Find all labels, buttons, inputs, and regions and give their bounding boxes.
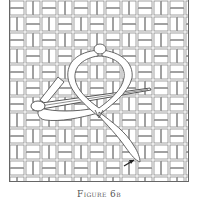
ribbon-knot-top [94, 44, 106, 54]
figure-caption: Figure 6b [0, 189, 198, 199]
canvas-weave-grid [9, 0, 189, 182]
needle-eye-knot [31, 101, 45, 111]
embroidery-illustration [0, 0, 198, 209]
figure: Figure 6b [0, 0, 198, 209]
